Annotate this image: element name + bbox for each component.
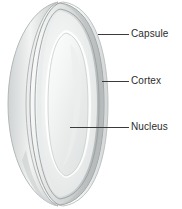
- lens-body-group: [8, 2, 108, 206]
- label-capsule: Capsule: [131, 29, 168, 39]
- label-cortex: Cortex: [131, 76, 161, 86]
- label-nucleus: Nucleus: [131, 122, 168, 132]
